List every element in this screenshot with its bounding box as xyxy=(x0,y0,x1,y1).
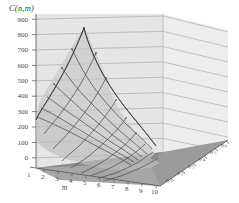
m-tick-8: 8 xyxy=(125,185,129,193)
surface-plot-svg xyxy=(0,0,239,203)
m-tick-4: 4 xyxy=(69,177,73,185)
m-axis-label: m xyxy=(62,183,67,192)
m-tick-2: 2 xyxy=(41,173,45,181)
z-tick-700: 700 xyxy=(6,46,28,54)
z-tick-400: 400 xyxy=(6,92,28,100)
z-axis xyxy=(32,14,36,168)
m-tick-10: 10 xyxy=(151,188,158,196)
m-tick-6: 6 xyxy=(97,181,101,189)
m-tick-5: 5 xyxy=(83,179,87,187)
plot-scene xyxy=(0,0,239,203)
m-tick-9: 9 xyxy=(139,187,143,195)
m-tick-7: 7 xyxy=(111,183,115,191)
z-tick-500: 500 xyxy=(6,77,28,85)
z-tick-900: 900 xyxy=(6,16,28,24)
back-right-wall xyxy=(163,14,228,152)
surface-plot-figure: C(n,m) xyxy=(0,0,239,203)
z-tick-0: 0 xyxy=(6,154,28,162)
m-tick-1: 1 xyxy=(27,171,31,179)
z-axis-ticks xyxy=(32,19,36,158)
z-tick-800: 800 xyxy=(6,31,28,39)
z-tick-600: 600 xyxy=(6,62,28,70)
m-tick-3: 3 xyxy=(55,175,59,183)
z-tick-200: 200 xyxy=(6,123,28,131)
z-tick-100: 100 xyxy=(6,139,28,147)
z-tick-300: 300 xyxy=(6,108,28,116)
